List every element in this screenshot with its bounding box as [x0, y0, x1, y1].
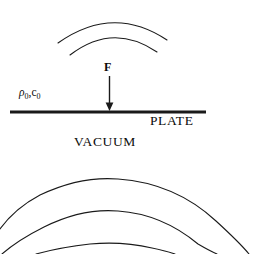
diagram-vector-layer	[0, 0, 255, 254]
upper-wavefront-arc-inner	[70, 38, 157, 55]
lower-wavefront-arc-inner	[36, 243, 175, 254]
lower-wavefront-arc-outer	[0, 179, 249, 254]
physics-diagram-plate-radiation: F ρ0,c0 PLATE VACUUM	[0, 0, 255, 254]
density-symbol: ρ	[19, 86, 25, 98]
lower-wavefront-arc-middle	[2, 211, 217, 254]
plate-label: PLATE	[150, 114, 194, 128]
sound-speed-subscript: 0	[37, 92, 41, 101]
upper-wavefronts-group	[58, 23, 167, 55]
force-label: F	[104, 61, 111, 73]
sound-speed-symbol: c	[31, 86, 36, 98]
density-subscript: 0	[25, 92, 29, 101]
force-arrow-head	[106, 103, 114, 112]
upper-wavefront-arc-outer	[58, 23, 167, 43]
force-arrow-group	[106, 76, 114, 111]
vacuum-label: VACUUM	[74, 135, 136, 149]
medium-properties-label: ρ0,c0	[19, 87, 41, 99]
lower-wavefronts-group	[0, 179, 249, 254]
